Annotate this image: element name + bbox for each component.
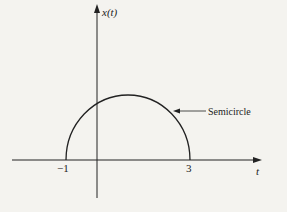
annotation-label: Semicircle: [208, 106, 251, 117]
y-axis-label: x(t): [101, 6, 118, 19]
tick-label-neg1: −1: [57, 162, 69, 174]
tick-label-3: 3: [186, 162, 192, 174]
annotation-arrow-icon: [173, 109, 180, 114]
x-axis-arrow-icon: [253, 157, 262, 163]
y-axis-arrow-icon: [94, 4, 100, 13]
x-axis-label: t: [256, 165, 260, 177]
semicircle-diagram: x(t) t −1 3 Semicircle: [0, 0, 287, 212]
semicircle-curve: [66, 95, 190, 160]
